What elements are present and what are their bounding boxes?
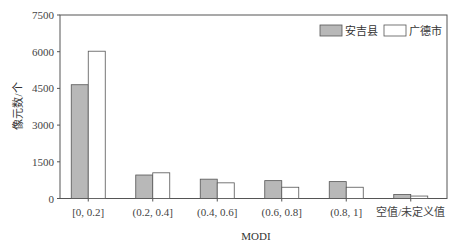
y-tick-label: 4500 [32, 82, 55, 94]
y-tick-label: 1500 [32, 156, 55, 168]
x-tick-label: (0.8, 1] [330, 206, 362, 219]
x-tick-label: 空值/未定义值 [376, 205, 445, 218]
bar-guangde [282, 187, 299, 198]
legend-label: 安吉县 [345, 24, 378, 38]
bar-guangde [88, 51, 105, 198]
legend: 安吉县广德市 [320, 24, 442, 38]
y-tick-label: 0 [49, 193, 55, 205]
bar-anji [136, 175, 153, 198]
y-tick-label: 3000 [32, 119, 55, 131]
legend-swatch [384, 25, 406, 36]
x-tick-label: (0.2, 0.4] [133, 206, 173, 219]
legend-label: 广德市 [409, 24, 442, 38]
bar-guangde [153, 173, 170, 199]
x-tick-label: (0.4, 0.6] [197, 206, 237, 219]
x-tick-label: [0, 0.2] [72, 206, 104, 218]
bar-guangde [217, 183, 234, 199]
y-tick-label: 6000 [32, 46, 55, 58]
plot-frame [60, 15, 447, 199]
bar-anji [200, 179, 217, 198]
y-axis-title: 像元数/个 [12, 82, 24, 129]
legend-swatch [320, 25, 342, 36]
bar-anji [265, 181, 282, 199]
bar-guangde [411, 196, 428, 198]
x-axis-title: MODI [241, 230, 271, 242]
bar-anji [394, 195, 411, 199]
bar-anji [71, 85, 88, 199]
plot-area: 015003000450060007500[0, 0.2](0.2, 0.4](… [32, 9, 447, 219]
bar-anji [329, 182, 346, 199]
x-tick-label: (0.6, 0.8] [262, 206, 302, 219]
bar-guangde [346, 187, 363, 198]
y-tick-label: 7500 [32, 9, 55, 21]
bar-chart: 015003000450060007500[0, 0.2](0.2, 0.4](… [0, 0, 458, 248]
